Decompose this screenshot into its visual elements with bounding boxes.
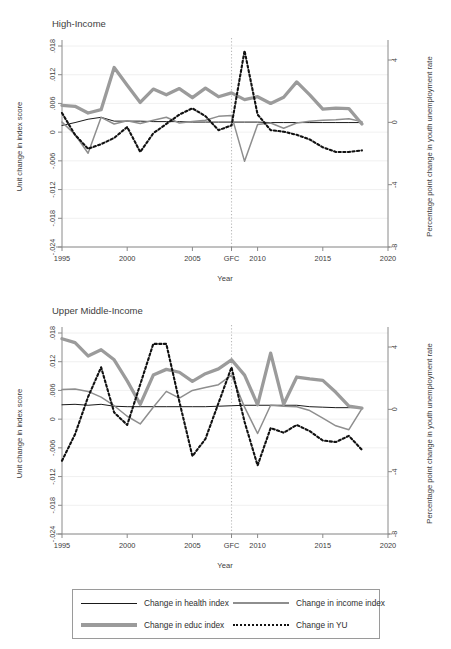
dotted-line-swatch-icon: [233, 620, 289, 630]
plot-area-high-income: .018.012.0060-.006-.012-.018-.02440-4-81…: [0, 0, 451, 295]
legend-item-label: Change in YU: [296, 620, 348, 630]
y-ticklabel-left: .018: [48, 326, 57, 340]
x-ticklabel: GFC: [224, 254, 240, 263]
x-ticklabel: GFC: [224, 541, 240, 550]
series-line: [62, 68, 362, 124]
x-ticklabel: 2020: [380, 254, 396, 263]
y-axis-title-left: Unit change in index score: [15, 102, 24, 192]
x-ticklabel: 1995: [54, 541, 70, 550]
y-ticklabel-right: -8: [390, 531, 399, 537]
x-ticklabel: 2010: [249, 254, 265, 263]
y-ticklabel-left: .006: [48, 383, 57, 397]
y-axis-title-right: Percentage point change in youth unemplo…: [425, 56, 434, 236]
chart-svg: .018.012.0060-.006-.012-.018-.02440-4-81…: [0, 287, 451, 582]
legend-item-label: Change in income index: [296, 598, 385, 608]
plot-area-upper-middle-income: .018.012.0060-.006-.012-.018-.02440-4-81…: [0, 287, 451, 582]
y-ticklabel-right: -8: [390, 244, 399, 250]
y-ticklabel-left: 0: [48, 417, 57, 421]
x-ticklabel: 2015: [315, 254, 331, 263]
line-swatch-icon: [81, 598, 137, 608]
x-ticklabel: 2005: [184, 254, 200, 263]
y-ticklabel-left: -.024: [48, 526, 57, 542]
y-axis-title-right: Percentage point change in youth unemplo…: [425, 343, 434, 523]
y-ticklabel-right: 4: [390, 58, 399, 62]
legend-item[interactable]: Change in health index: [81, 594, 229, 612]
y-ticklabel-right: 0: [390, 120, 399, 124]
y-ticklabel-left: -.018: [48, 210, 57, 226]
chart-panel-high-income: High-Income .018.012.0060-.006-.012-.018…: [0, 0, 451, 295]
series-line: [62, 339, 362, 408]
y-ticklabel-right: -4: [390, 468, 399, 474]
x-ticklabel: 2020: [380, 541, 396, 550]
x-ticklabel: 2010: [249, 541, 265, 550]
chart-panel-upper-middle-income: Upper Middle-Income .018.012.0060-.006-.…: [0, 287, 451, 582]
y-ticklabel-left: -.006: [48, 440, 57, 456]
y-ticklabel-left: 0: [48, 130, 57, 134]
y-ticklabel-right: -4: [390, 181, 399, 187]
y-ticklabel-left: .018: [48, 39, 57, 53]
y-ticklabel-left: -.024: [48, 239, 57, 255]
line-swatch-icon: [81, 620, 137, 630]
x-ticklabel: 2000: [119, 541, 135, 550]
x-axis-title: Year: [217, 274, 233, 283]
series-line: [62, 404, 362, 407]
y-ticklabel-right: 4: [390, 345, 399, 349]
y-ticklabel-right: 0: [390, 407, 399, 411]
chart-legend: Change in health indexChange in income i…: [72, 589, 380, 639]
x-ticklabel: 2015: [315, 541, 331, 550]
legend-item-label: Change in educ index: [144, 620, 224, 630]
y-ticklabel-left: .012: [48, 68, 57, 82]
y-ticklabel-left: -.012: [48, 468, 57, 484]
legend-item-label: Change in health index: [144, 598, 229, 608]
y-ticklabel-left: .012: [48, 355, 57, 369]
legend-item[interactable]: Change in educ index: [81, 616, 224, 634]
y-ticklabel-left: -.012: [48, 181, 57, 197]
series-line: [62, 375, 362, 433]
x-axis-title: Year: [217, 561, 233, 570]
legend-item[interactable]: Change in YU: [233, 616, 348, 634]
legend-item[interactable]: Change in income index: [233, 594, 385, 612]
chart-svg: .018.012.0060-.006-.012-.018-.02440-4-81…: [0, 0, 451, 295]
y-ticklabel-left: .006: [48, 96, 57, 110]
line-swatch-icon: [233, 598, 289, 608]
y-ticklabel-left: -.018: [48, 497, 57, 513]
y-axis-title-left: Unit change in index score: [15, 389, 24, 479]
x-ticklabel: 1995: [54, 254, 70, 263]
x-ticklabel: 2005: [184, 541, 200, 550]
y-ticklabel-left: -.006: [48, 153, 57, 169]
x-ticklabel: 2000: [119, 254, 135, 263]
